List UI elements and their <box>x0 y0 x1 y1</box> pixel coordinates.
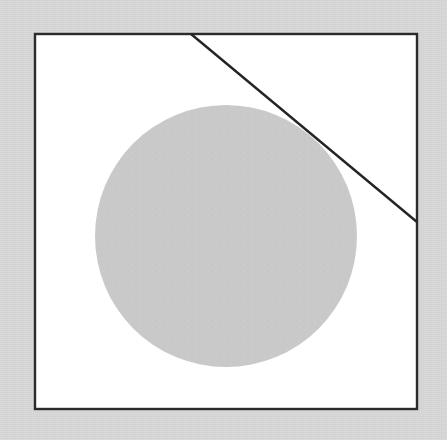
figure-canvas: Circle inscribed in square with tangent … <box>0 0 447 440</box>
gray-circle <box>95 105 357 367</box>
geometry-figure-svg: Circle inscribed in square with tangent … <box>0 0 447 440</box>
